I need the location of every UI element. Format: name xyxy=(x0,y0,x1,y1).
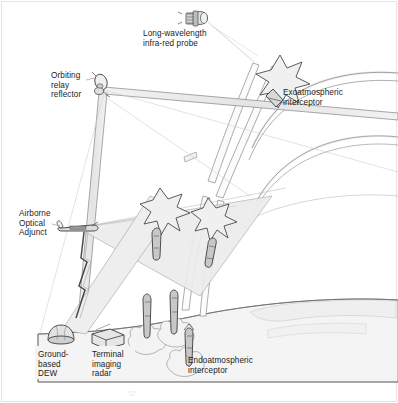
infrared-probe-icon xyxy=(178,11,208,26)
sdi-defence-diagram: Long-wavelength infra-red probe Exoatmos… xyxy=(0,0,398,403)
terminal-imaging-radar-icon xyxy=(92,324,124,349)
trajectory-dash xyxy=(184,152,197,162)
endoatmospheric-missile-3 xyxy=(184,324,194,366)
endoatmospheric-missile-2 xyxy=(170,290,178,334)
reentry-trails xyxy=(208,63,278,198)
relay-leader-line xyxy=(86,78,95,80)
page-artefact xyxy=(128,392,136,395)
ground-label-backgrounds xyxy=(35,346,135,379)
endoatmospheric-missile-1 xyxy=(143,294,151,338)
probe-leader-line-2 xyxy=(212,26,258,56)
diagram-canvas xyxy=(0,0,398,403)
interceptor-midcourse-left xyxy=(152,228,161,260)
